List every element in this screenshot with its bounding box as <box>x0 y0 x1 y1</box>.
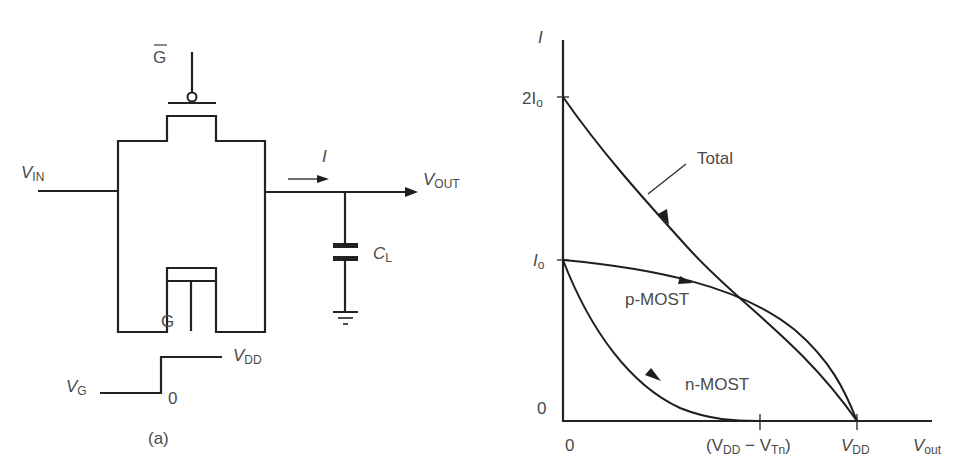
panel-a-caption: (a) <box>148 429 169 448</box>
v-in-label: VIN <box>21 163 44 184</box>
ground-icon <box>333 312 358 324</box>
n-most-curve <box>563 260 760 421</box>
y-axis-label: I <box>538 28 543 47</box>
cap-plate-bottom <box>333 256 358 261</box>
x-tick-label-zero: 0 <box>565 436 574 455</box>
p-most-curve-label: p-MOST <box>625 290 689 309</box>
current-voltage-chart: I 2Io Io 0 0 (VDD − VTn) VDD Vout Total … <box>522 28 942 457</box>
output-arrow-icon <box>405 187 418 197</box>
x-tick-label-vdd-minus-vtn: (VDD − VTn) <box>706 436 791 457</box>
transmission-gate-circuit: VIN G G VOUT I CL <box>21 45 460 448</box>
y-tick-label-zero: 0 <box>537 399 546 418</box>
n-most-direction-arrow-icon <box>645 368 661 381</box>
g-label: G <box>161 312 174 331</box>
current-label: I <box>322 147 327 166</box>
g-bar-label: G <box>153 48 166 67</box>
v-g-label: VG <box>66 377 87 398</box>
total-curve <box>563 97 857 421</box>
total-curve-label: Total <box>697 149 733 168</box>
y-tick-label-io: Io <box>533 251 545 272</box>
cap-plate-top <box>333 243 358 248</box>
p-mos-channel <box>118 116 265 192</box>
y-tick-label-2io: 2Io <box>522 89 543 110</box>
total-leader-line <box>648 164 686 194</box>
gate-step-waveform <box>100 357 222 393</box>
v-dd-label: VDD <box>233 346 262 367</box>
v-out-label: VOUT <box>423 170 460 191</box>
p-most-direction-arrow-icon <box>678 276 693 284</box>
n-most-curve-label: n-MOST <box>685 375 749 394</box>
x-axis-label: Vout <box>913 436 942 457</box>
inversion-bubble-icon <box>188 93 197 102</box>
current-arrow-icon <box>317 175 329 183</box>
x-tick-label-vdd: VDD <box>841 436 870 457</box>
zero-level-label: 0 <box>168 389 177 408</box>
figure-canvas: VIN G G VOUT I CL <box>0 0 963 475</box>
p-most-curve <box>563 260 857 421</box>
cap-label: CL <box>373 244 392 265</box>
